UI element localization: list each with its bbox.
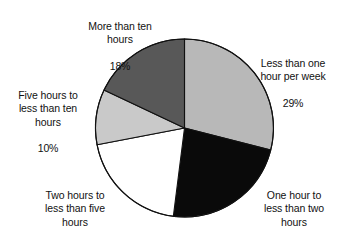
pie-label-more-than-ten-hours: More than ten hours 18% bbox=[56, 7, 184, 86]
pie-label-text: One hour to less than two hours bbox=[249, 189, 339, 229]
pie-label-text: Less than one hour per week bbox=[247, 57, 339, 83]
pie-label-text: More than ten hours bbox=[56, 20, 184, 46]
pie-label-value: 29% bbox=[247, 97, 339, 110]
pie-label-two-hours-to-less-than-five-hours: Two hours to less than five hours 20% bbox=[23, 176, 127, 232]
pie-label-value: 18% bbox=[56, 60, 184, 73]
pie-label-less-than-one-hour-per-week: Less than one hour per week 29% bbox=[247, 44, 339, 123]
pie-label-value: 10% bbox=[0, 142, 96, 155]
pie-label-five-hours-to-less-than-ten-hours: Five hours to less than ten hours 10% bbox=[0, 76, 96, 168]
pie-label-one-hour-to-less-than-two-hours: One hour to less than two hours 23% bbox=[249, 176, 339, 232]
pie-label-text: Five hours to less than ten hours bbox=[0, 89, 96, 129]
pie-chart-figure: More than ten hours 18% Less than one ho… bbox=[0, 0, 339, 232]
pie-label-text: Two hours to less than five hours bbox=[23, 189, 127, 229]
